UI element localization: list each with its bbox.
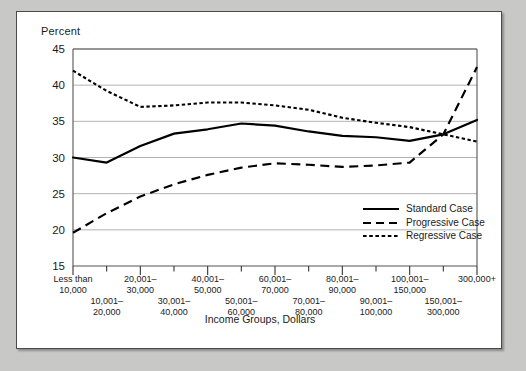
x-axis-tick-label-10: 100,001–150,000	[391, 274, 429, 295]
legend-label-progressive: Progressive Case	[406, 216, 485, 230]
legend-key-dotted-icon	[361, 229, 401, 243]
legend-label-regressive: Regressive Case	[406, 229, 482, 243]
x-axis-tick-label-2: 20,001–30,000	[124, 274, 157, 295]
legend-label-standard: Standard Case	[406, 202, 473, 216]
legend-item-regressive: Regressive Case	[361, 229, 485, 243]
legend-item-standard: Standard Case	[361, 202, 485, 216]
x-axis-title: Income Groups, Dollars	[17, 313, 503, 325]
legend-key-dashed-icon	[361, 216, 401, 230]
x-axis-tick-label-4: 40,001–50,000	[191, 274, 224, 295]
plot-area-wrapper: Percent 15202530354045 Less than10,00010…	[17, 12, 503, 350]
legend-item-progressive: Progressive Case	[361, 216, 485, 230]
legend-key-solid-icon	[361, 202, 401, 216]
x-axis-tick-label-6: 60,001–70,000	[259, 274, 292, 295]
x-axis-tick-label-8: 80,001–90,000	[326, 274, 359, 295]
x-axis-tick-label-12: 300,000+	[458, 274, 496, 285]
chart-legend: Standard Case Progressive Case Regressiv…	[361, 202, 485, 243]
chart-card: Percent 15202530354045 Less than10,00010…	[16, 11, 502, 349]
chart-screenshot: Percent 15202530354045 Less than10,00010…	[0, 0, 526, 371]
x-axis-tick-label-0: Less than10,000	[53, 274, 92, 295]
